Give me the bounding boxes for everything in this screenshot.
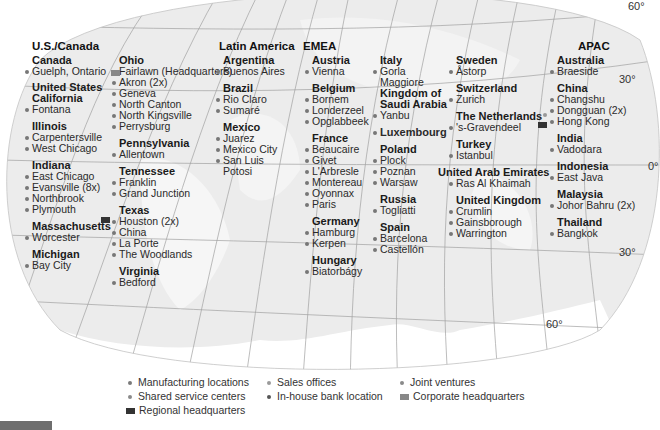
location-zurich: Zurich: [448, 94, 549, 105]
location-maggiore: Maggiore: [372, 77, 447, 88]
legend-joint-ventures: Joint ventures: [400, 376, 475, 388]
location-s-gravendeel: 's-Gravendeel: [448, 122, 549, 133]
location-worcester: Worcester: [24, 232, 111, 243]
regional-hq-square-icon: [126, 408, 135, 414]
corporate-hq-marker-icon: [111, 70, 120, 76]
location-guelph: Guelph, Ontario: [24, 66, 111, 77]
emea-column-2: Italy Gorla Maggiore Kingdom of Saudi Ar…: [372, 55, 447, 255]
location-bedford: Bedford: [111, 277, 232, 288]
country-luxembourg: Luxembourg: [372, 127, 447, 138]
location-warsaw: Warsaw: [372, 177, 447, 188]
location-buenos-aires: Buenos Aires: [215, 66, 285, 77]
location-grand-junction: Grand Junction: [111, 188, 232, 199]
location-biatorbagy: Biatorbágy: [304, 266, 369, 277]
location-east-java: East Java: [549, 172, 635, 183]
location-kerpen: Kerpen: [304, 238, 369, 249]
location-vienna: Vienna: [304, 66, 369, 77]
location-braeside: Braeside: [549, 66, 635, 77]
location-istanbul: Istanbul: [448, 150, 549, 161]
legend-shared-service: Shared service centers: [128, 390, 245, 402]
in-house-bank-dot-icon: [267, 395, 271, 399]
location-potosi: Potosi: [215, 166, 285, 177]
legend-sales: Sales offices: [267, 376, 336, 388]
legend-corporate-hq: Corporate headquarters: [400, 390, 525, 402]
region-title-emea: EMEA: [303, 40, 336, 52]
location-hong-kong: Hong Kong: [549, 116, 635, 127]
apac-column: Australia Braeside China Changshu Donggu…: [549, 55, 635, 239]
region-title-latin-america: Latin America: [219, 40, 295, 52]
location-the-woodlands: The Woodlands: [111, 249, 232, 260]
legend-in-house-bank: In-house bank location: [267, 390, 383, 402]
sales-dot-icon: [267, 381, 271, 385]
legend-manufacturing: Manufacturing locations: [128, 376, 249, 388]
location-bangkok: Bangkok: [549, 228, 635, 239]
location-bay-city: Bay City: [24, 260, 111, 271]
location-warrington: Warrington: [448, 228, 549, 239]
location-ras-al-khaimah: Ras Al Khaimah: [448, 178, 549, 189]
legend-regional-hq: Regional headquarters: [126, 404, 245, 416]
location-astorp: Åstorp: [448, 66, 549, 77]
location-togliatti: Togliatti: [372, 205, 447, 216]
latitude-label-60-south: 60°: [546, 318, 563, 330]
regional-hq-marker-hong-kong-icon: [538, 122, 547, 128]
country-sweden: Sweden: [438, 55, 549, 66]
location-plymouth: Plymouth: [24, 204, 111, 215]
emea-column-3: Sweden Åstorp Switzerland Zurich The Net…: [438, 55, 549, 239]
location-west-chicago: West Chicago: [24, 143, 111, 154]
location-castellon: Castellón: [372, 244, 447, 255]
extra-dongguan-dot-icon: [543, 113, 547, 117]
latitude-label-30-south: 30°: [619, 246, 636, 258]
corner-bar: [0, 421, 52, 430]
shared-service-dot-icon: [128, 395, 132, 399]
latin-america-column: Argentina Buenos Aires Brazil Rio Claro …: [215, 55, 285, 177]
location-fontana: Fontana: [24, 104, 111, 115]
country-switzerland: Switzerland: [438, 83, 549, 94]
manufacturing-dot-icon: [128, 381, 132, 385]
region-title-us-canada: U.S./Canada: [32, 40, 99, 52]
joint-venture-dot-icon: [400, 381, 404, 385]
latitude-label-60-north: 60°: [628, 0, 645, 12]
location-johor-bahru: Johor Bahru (2x): [549, 200, 635, 211]
country-turkey: Turkey: [438, 139, 549, 150]
location-paris: Paris: [304, 199, 369, 210]
emea-column-1: Austria Vienna Belgium Bornem Londerzeel…: [304, 55, 369, 277]
location-vadodara: Vadodara: [549, 144, 635, 155]
corporate-hq-square-icon: [400, 394, 409, 400]
location-opglabbeek: Opglabbeek: [304, 116, 369, 127]
country-united-kingdom: United Kingdom: [438, 195, 549, 206]
regional-hq-marker-houston-icon: [101, 217, 110, 223]
region-title-apac: APAC: [578, 40, 610, 52]
us-canada-column-1: Canada Guelph, Ontario United States Cal…: [24, 55, 111, 271]
location-yanbu: Yanbu: [372, 110, 447, 121]
latitude-label-0: 0°: [648, 160, 659, 172]
location-sumare: Sumaré: [215, 105, 285, 116]
